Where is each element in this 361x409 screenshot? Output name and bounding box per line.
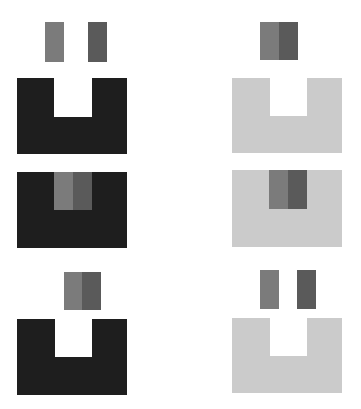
panel-top-right — [232, 22, 342, 153]
block-b — [73, 172, 92, 210]
block-b — [288, 170, 307, 209]
block-b — [88, 22, 107, 62]
block-b — [297, 270, 316, 309]
block-a — [260, 22, 279, 60]
u-shape-dark — [17, 78, 127, 154]
u-shape-light — [232, 78, 342, 153]
panel-bottom-right — [232, 270, 342, 393]
block-a — [269, 170, 288, 209]
u-shape-light — [232, 318, 342, 393]
block-a — [54, 172, 73, 210]
panel-top-left — [17, 22, 127, 154]
diagram-canvas — [0, 0, 361, 409]
u-shape-dark — [17, 319, 127, 395]
block-a — [45, 22, 64, 62]
panel-middle-left — [17, 172, 127, 248]
block-b — [82, 272, 101, 310]
block-a — [64, 272, 82, 310]
block-b — [279, 22, 298, 60]
panel-middle-right — [232, 170, 342, 247]
panel-bottom-left — [17, 272, 127, 395]
block-a — [260, 270, 279, 309]
